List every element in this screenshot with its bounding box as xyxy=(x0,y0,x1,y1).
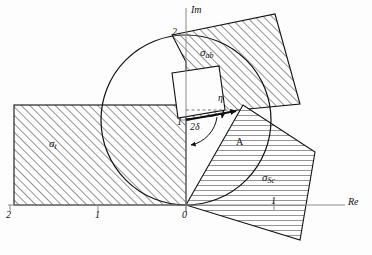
re-tick-neg1: 1 xyxy=(95,210,100,220)
sigma-ab-subscript: ab xyxy=(205,51,213,60)
eta-label: η xyxy=(218,93,223,103)
re-tick-neg2: 2 xyxy=(6,210,11,220)
sigma-t-subscript: t xyxy=(54,142,56,151)
imaginary-axis-label: Im xyxy=(191,5,202,15)
origin-label: 0 xyxy=(182,210,187,220)
region-sigma-sc xyxy=(186,105,315,240)
region-sigma-ab xyxy=(172,14,300,119)
amplitude-label: A xyxy=(236,137,243,147)
region-sigma-t xyxy=(14,105,186,205)
two-delta-label: 2δ xyxy=(190,122,200,132)
region-label-sigma-ab: σab xyxy=(200,47,213,60)
sigma-sc-subscript: Sc xyxy=(267,176,275,185)
im-tick-1: 1 xyxy=(177,117,182,127)
re-tick-pos1: 1 xyxy=(271,196,276,206)
region-label-sigma-t: σt xyxy=(49,138,57,151)
im-tick-2: 2 xyxy=(172,27,177,37)
real-axis-label: Re xyxy=(348,197,359,207)
region-label-sigma-sc: σSc xyxy=(262,172,275,185)
